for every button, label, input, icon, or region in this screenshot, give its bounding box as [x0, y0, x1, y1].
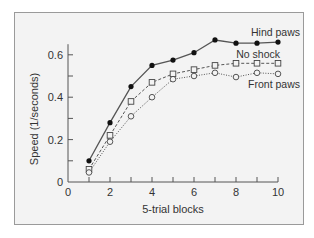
data-point-open-circle	[191, 73, 197, 79]
y-tick-label: 0.4	[48, 91, 63, 103]
series-labels: Hind pawsNo shockFront paws	[236, 26, 300, 90]
data-point-open-square	[170, 71, 176, 77]
data-point-filled-circle	[149, 63, 154, 68]
data-point-open-square	[149, 80, 155, 86]
line-chart: 024681000.20.40.6 Hind pawsNo shockFront…	[0, 0, 314, 238]
y-tick-label: 0	[57, 176, 63, 188]
data-point-open-circle	[275, 71, 281, 77]
series-label: No shock	[236, 48, 281, 60]
data-point-filled-circle	[107, 120, 112, 125]
x-tick-label: 8	[233, 186, 239, 198]
data-point-filled-circle	[86, 158, 91, 163]
data-point-open-circle	[128, 113, 134, 119]
x-tick-label: 4	[149, 186, 155, 198]
series-label: Front paws	[248, 78, 300, 90]
data-point-open-square	[191, 67, 197, 73]
data-point-open-square	[107, 133, 113, 139]
y-axis-title: Speed (1/seconds)	[28, 73, 40, 165]
data-point-open-circle	[212, 70, 218, 76]
data-point-open-square	[233, 60, 239, 66]
data-point-open-circle	[107, 139, 113, 145]
data-point-open-square	[128, 99, 134, 105]
data-point-filled-circle	[128, 84, 133, 89]
x-tick-label: 2	[107, 186, 113, 198]
x-tick-label: 10	[272, 186, 284, 198]
y-tick-label: 0.2	[48, 134, 63, 146]
data-point-filled-circle	[254, 41, 259, 46]
x-tick-label: 0	[65, 186, 71, 198]
data-point-filled-circle	[275, 39, 280, 44]
series-label: Hind paws	[251, 26, 300, 38]
x-axis-title: 5-trial blocks	[142, 203, 204, 215]
data-point-open-circle	[170, 76, 176, 82]
data-point-filled-circle	[191, 50, 196, 55]
data-point-filled-circle	[212, 37, 217, 42]
axes: 024681000.20.40.6	[48, 44, 284, 198]
data-point-open-square	[212, 63, 218, 69]
data-point-filled-circle	[170, 58, 175, 63]
y-tick-label: 0.6	[48, 49, 63, 61]
data-point-open-circle	[233, 74, 239, 80]
data-point-open-circle	[254, 70, 260, 76]
data-point-open-circle	[149, 94, 155, 100]
x-tick-label: 6	[191, 186, 197, 198]
data-point-open-square	[254, 60, 260, 66]
data-point-filled-circle	[233, 41, 238, 46]
data-point-open-circle	[86, 170, 92, 176]
data-point-open-square	[275, 60, 281, 66]
